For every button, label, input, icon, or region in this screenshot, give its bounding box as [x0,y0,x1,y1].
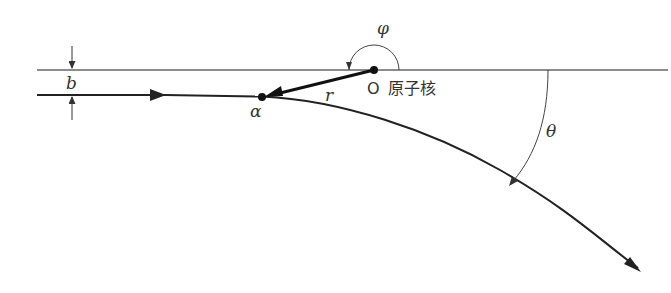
r-vector-arrowhead-icon [264,86,283,97]
label-phi: φ [377,18,389,38]
theta-angle-arc [514,70,548,180]
nucleus-point [370,66,378,74]
r-vector-line [272,70,374,95]
label-nucleus: 原子核 [388,79,436,98]
scattering-diagram: b φ r O 原子核 α θ [0,0,671,293]
label-theta: θ [546,121,556,141]
incident-direction-arrow-icon [150,89,166,101]
alpha-trajectory-curve [262,97,638,269]
label-b: b [66,73,77,93]
label-r: r [325,85,334,105]
label-alpha: α [250,101,262,121]
label-origin: O [367,79,380,98]
alpha-particle-point [258,93,266,101]
diagram-canvas: b φ r O 原子核 α θ [0,0,671,293]
phi-arrowhead-icon [346,62,352,70]
